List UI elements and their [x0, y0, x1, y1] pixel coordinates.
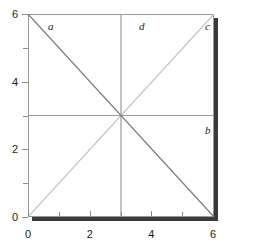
plot-shadow-right [214, 18, 218, 221]
y-tick-1 [23, 183, 28, 184]
y-tick-label-6: 6 [4, 9, 18, 20]
x-tick-3 [121, 212, 122, 217]
y-tick-4 [22, 82, 28, 83]
x-tick-label-0: 0 [19, 229, 37, 240]
y-tick-6 [22, 14, 28, 15]
x-tick-2 [90, 211, 91, 217]
data-lines [28, 14, 214, 217]
curve-label-b: b [205, 125, 211, 136]
curve-label-d: d [139, 21, 145, 32]
plot-shadow-bottom [32, 217, 218, 221]
x-tick-1 [59, 212, 60, 217]
y-tick-2 [22, 149, 28, 150]
x-tick-6 [213, 211, 214, 217]
y-tick-label-0: 0 [4, 212, 18, 223]
y-tick-label-4: 4 [4, 77, 18, 88]
y-tick-3 [23, 116, 28, 117]
y-tick-5 [23, 48, 28, 49]
x-tick-label-4: 4 [142, 229, 160, 240]
x-tick-0 [28, 211, 29, 217]
y-tick-0 [22, 217, 28, 218]
x-tick-4 [151, 211, 152, 217]
x-tick-5 [182, 212, 183, 217]
curve-label-c: c [205, 21, 210, 32]
x-tick-label-2: 2 [81, 229, 99, 240]
curve-label-a: a [48, 21, 54, 32]
chart-figure: 6 4 2 0 0 2 4 6 a d c b [0, 0, 258, 249]
x-tick-label-6: 6 [204, 229, 222, 240]
y-tick-label-2: 2 [4, 144, 18, 155]
